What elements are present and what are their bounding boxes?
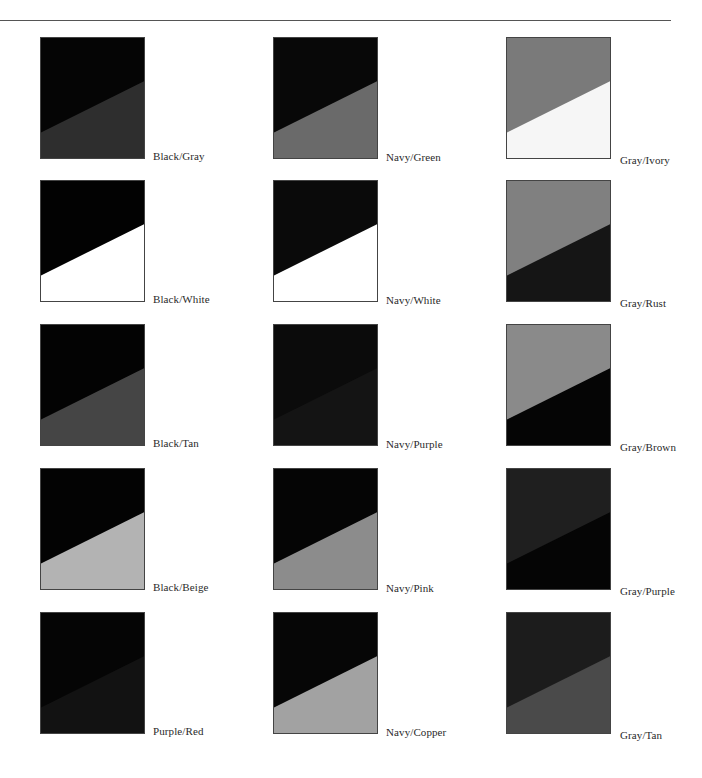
color-swatch	[273, 324, 378, 446]
color-swatch	[40, 37, 145, 159]
color-swatch	[273, 180, 378, 302]
color-swatch	[506, 37, 611, 159]
color-swatch	[40, 612, 145, 734]
color-swatch	[40, 468, 145, 590]
swatch-label: Gray/Brown	[620, 441, 676, 453]
swatch-label: Navy/Pink	[386, 582, 434, 594]
swatch-label: Black/Beige	[153, 581, 208, 593]
color-swatch	[506, 324, 611, 446]
swatch-label: Purple/Red	[153, 725, 204, 737]
color-swatch	[273, 37, 378, 159]
color-swatch	[273, 612, 378, 734]
swatch-label: Navy/Copper	[386, 726, 446, 738]
swatch-label: Gray/Ivory	[620, 154, 670, 166]
color-swatch	[273, 468, 378, 590]
swatch-label: Navy/Purple	[386, 438, 443, 450]
color-swatch	[40, 324, 145, 446]
swatch-label: Gray/Purple	[620, 585, 675, 597]
swatch-label: Gray/Rust	[620, 297, 666, 309]
color-swatch	[506, 468, 611, 590]
swatch-label: Navy/Green	[386, 151, 441, 163]
top-rule	[0, 20, 671, 21]
swatch-label: Gray/Tan	[620, 729, 662, 741]
swatch-label: Black/Tan	[153, 437, 199, 449]
swatch-label: Navy/White	[386, 294, 441, 306]
swatch-label: Black/Gray	[153, 150, 205, 162]
swatch-label: Black/White	[153, 293, 210, 305]
color-swatch	[506, 180, 611, 302]
color-swatch	[506, 612, 611, 734]
color-swatch	[40, 180, 145, 302]
